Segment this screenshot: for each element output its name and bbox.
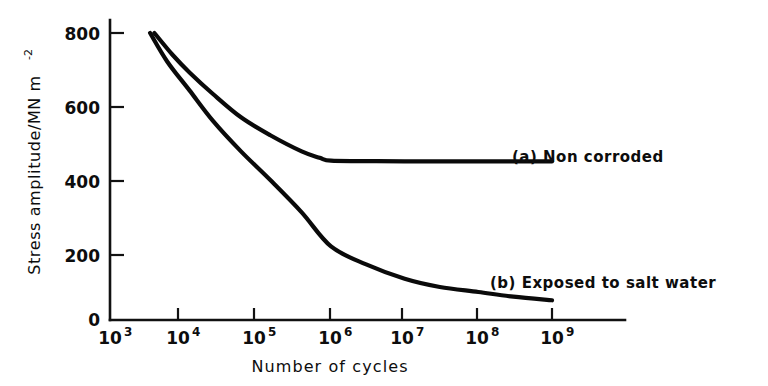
x-tick-base-1e8: 10 (465, 328, 489, 348)
series-label-exposed-salt-water: (b) Exposed to salt water (490, 274, 716, 292)
series-line-non-corroded (154, 33, 552, 161)
x-tick-label-1e7: 10 7 (390, 325, 424, 348)
x-tick-base-1e6: 10 (318, 328, 342, 348)
x-tick-exp-1e3: 3 (124, 325, 132, 339)
x-tick-exp-1e4: 4 (192, 325, 200, 339)
series-label-non-corroded: (a) Non corroded (512, 148, 664, 166)
fatigue-sn-chart: 800 600 400 200 0 10 3 10 4 (0, 0, 768, 386)
y-tick-label-0: 0 (88, 310, 100, 330)
x-axis-title: Number of cycles (251, 357, 408, 376)
x-tick-exp-1e6: 6 (344, 325, 352, 339)
x-tick-base-1e3: 10 (98, 328, 122, 348)
y-tick-label-600: 600 (65, 98, 101, 118)
y-tick-label-200: 200 (65, 246, 101, 266)
y-axis-title-superscript: -2 (22, 49, 35, 60)
figure-container: 800 600 400 200 0 10 3 10 4 (0, 0, 768, 386)
y-axis-title-group: Stress amplitude/MN m -2 (22, 49, 44, 275)
x-tick-label-1e9: 10 9 (540, 325, 574, 348)
y-axis-tick-labels: 800 600 400 200 0 (65, 24, 101, 330)
x-axis-tick-labels: 10 3 10 4 10 5 10 6 10 7 10 8 (98, 325, 574, 348)
x-axis-ticks (178, 308, 552, 320)
y-axis-title: Stress amplitude/MN m (25, 75, 44, 275)
x-tick-exp-1e7: 7 (416, 325, 424, 339)
x-tick-exp-1e5: 5 (268, 325, 276, 339)
x-tick-base-1e5: 10 (242, 328, 266, 348)
x-tick-base-1e4: 10 (166, 328, 190, 348)
x-tick-exp-1e8: 8 (491, 325, 499, 339)
x-tick-label-1e6: 10 6 (318, 325, 352, 348)
x-tick-label-1e3: 10 3 (98, 325, 132, 348)
x-tick-exp-1e9: 9 (566, 325, 574, 339)
y-tick-label-400: 400 (65, 172, 101, 192)
x-tick-label-1e5: 10 5 (242, 325, 276, 348)
x-tick-label-1e4: 10 4 (166, 325, 200, 348)
x-tick-base-1e9: 10 (540, 328, 564, 348)
series-line-exposed-salt-water (150, 33, 552, 300)
x-tick-base-1e7: 10 (390, 328, 414, 348)
y-tick-label-800: 800 (65, 24, 101, 44)
y-axis-ticks (110, 33, 124, 255)
x-tick-label-1e8: 10 8 (465, 325, 499, 348)
